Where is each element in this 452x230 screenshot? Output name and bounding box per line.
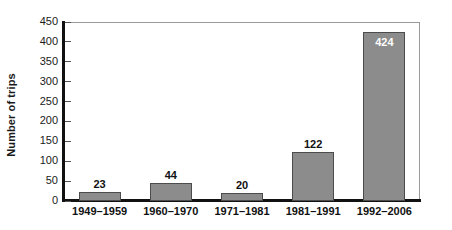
bar-value-label: 424 <box>354 36 414 48</box>
y-tick-mark <box>65 41 71 42</box>
bar-value-label: 23 <box>70 178 130 190</box>
y-tick-mark <box>65 121 71 122</box>
y-tick-mark <box>65 101 71 102</box>
y-tick-mark <box>65 161 71 162</box>
bar-value-label: 44 <box>141 169 201 181</box>
y-tick-mark <box>65 81 71 82</box>
x-axis-label: 1960–1970 <box>135 205 206 218</box>
y-tick-label: 0 <box>30 195 58 206</box>
x-axis-label: 1971–1981 <box>206 205 277 218</box>
bar <box>363 32 405 201</box>
y-tick-label: 300 <box>30 76 58 87</box>
bar <box>79 192 121 201</box>
bar <box>150 183 192 201</box>
bar-value-label: 20 <box>212 179 272 191</box>
y-tick-mark <box>65 141 71 142</box>
y-tick-label: 200 <box>30 115 58 126</box>
bar-value-label: 122 <box>283 138 343 150</box>
bar <box>292 152 334 201</box>
x-axis-label: 1981–1991 <box>278 205 349 218</box>
x-axis-label: 1949–1959 <box>64 205 135 218</box>
bar-chart: Number of trips 050100150200250300350400… <box>0 0 452 230</box>
x-axis-label: 1992–2006 <box>349 205 420 218</box>
y-tick-label: 350 <box>30 56 58 67</box>
y-tick-label: 400 <box>30 36 58 47</box>
y-tick-label: 50 <box>30 175 58 186</box>
y-axis-title: Number of trips <box>0 0 22 230</box>
y-tick-label: 450 <box>30 16 58 27</box>
y-axis-line <box>62 21 65 202</box>
y-tick-label: 150 <box>30 135 58 146</box>
y-tick-label: 250 <box>30 96 58 107</box>
y-tick-mark <box>65 201 71 202</box>
y-tick-label: 100 <box>30 155 58 166</box>
y-tick-mark <box>65 61 71 62</box>
y-tick-mark <box>65 22 71 23</box>
bar <box>221 193 263 201</box>
